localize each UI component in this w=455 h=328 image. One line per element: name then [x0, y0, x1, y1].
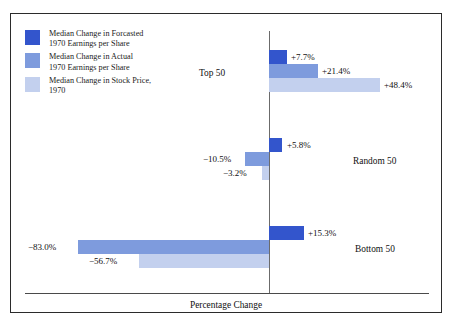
- bar-value-random-50-actual-eps: −10.5%: [203, 152, 231, 166]
- bar-value-top-50-forecasted-eps: +7.7%: [291, 50, 315, 64]
- bar-value-random-50-stock-price: −3.2%: [223, 166, 247, 180]
- legend-swatch-actual-eps: [25, 53, 40, 68]
- bar-value-bottom-50-stock-price: −56.7%: [89, 254, 117, 268]
- legend-label-actual-eps: Median Change in Actual 1970 Earnings pe…: [49, 52, 133, 72]
- bar-value-top-50-stock-price: +48.4%: [384, 78, 412, 92]
- group-label-random-50: Random 50: [353, 155, 397, 167]
- group-label-top-50: Top 50: [199, 67, 225, 79]
- legend-label-stock-price: Median Change in Stock Price, 1970: [49, 76, 151, 96]
- bar-random-50-stock-price: [262, 166, 269, 180]
- bar-random-50-actual-eps: [245, 152, 269, 166]
- plot-area: Median Change in Forcasted 1970 Earnings…: [11, 14, 441, 312]
- bar-value-bottom-50-forecasted-eps: +15.3%: [308, 226, 336, 240]
- bar-bottom-50-actual-eps: [78, 240, 269, 254]
- group-label-bottom-50: Bottom 50: [355, 243, 395, 255]
- bar-value-bottom-50-actual-eps: −83.0%: [28, 240, 56, 254]
- legend-item: Median Change in Forcasted 1970 Earnings…: [25, 29, 235, 49]
- bar-top-50-forecasted-eps: [269, 50, 287, 64]
- bar-bottom-50-stock-price: [139, 254, 269, 268]
- baseline-axis-line: [25, 293, 429, 294]
- bar-top-50-stock-price: [269, 78, 380, 92]
- legend-swatch-stock-price: [25, 77, 40, 92]
- bar-random-50-forecasted-eps: [269, 138, 282, 152]
- chart-legend: Median Change in Forcasted 1970 Earnings…: [25, 29, 235, 99]
- bar-value-top-50-actual-eps: +21.4%: [322, 64, 350, 78]
- axis-title: Percentage Change: [11, 300, 441, 310]
- bar-value-random-50-forecasted-eps: +5.8%: [287, 138, 311, 152]
- bar-bottom-50-forecasted-eps: [269, 226, 304, 240]
- chart-figure: Median Change in Forcasted 1970 Earnings…: [10, 13, 442, 313]
- legend-swatch-forecasted-eps: [25, 30, 40, 45]
- bar-top-50-actual-eps: [269, 64, 318, 78]
- legend-label-forecasted-eps: Median Change in Forcasted 1970 Earnings…: [49, 29, 143, 49]
